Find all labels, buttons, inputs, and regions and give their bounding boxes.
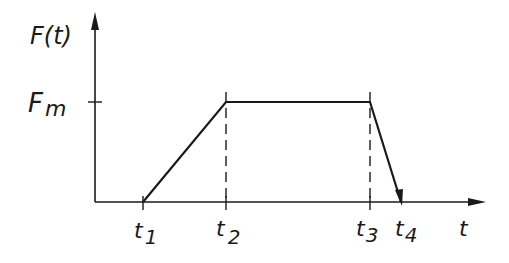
x-axis: [95, 196, 486, 210]
x-axis-label: t: [459, 216, 469, 241]
x-axis-arrow-icon: [468, 198, 486, 206]
y-axis-label: F(t): [30, 22, 72, 50]
t2-label: t2: [216, 216, 240, 249]
y-axis-arrow-icon: [91, 12, 99, 30]
t1-label: t1: [134, 218, 157, 249]
force-profile-curve: [143, 102, 401, 202]
fm-label: Fm: [28, 88, 66, 121]
force-time-diagram: F(t) Fm t1 t2 t3 t4 t: [0, 0, 509, 263]
t3-label: t3: [356, 216, 378, 247]
t4-label: t4: [395, 216, 417, 247]
guide-lines: [226, 92, 370, 202]
profile-end-arrow-icon: [395, 189, 403, 206]
y-axis: [88, 12, 102, 202]
